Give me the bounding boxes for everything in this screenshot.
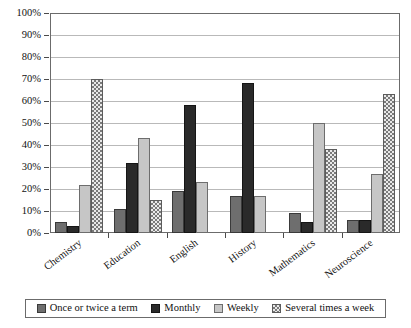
bar [172, 191, 184, 233]
y-tick-label: 70% [22, 74, 41, 85]
bar [383, 94, 395, 233]
y-tick-mark [44, 167, 49, 168]
y-tick-label: 20% [22, 184, 41, 195]
y-tick-mark [44, 211, 49, 212]
y-tick-label: 40% [22, 140, 41, 151]
bar [150, 200, 162, 233]
bar [55, 222, 67, 233]
x-category-label-text: English [168, 237, 200, 265]
y-tick-mark [44, 13, 49, 14]
y-tick-label: 100% [17, 8, 42, 19]
x-category-label-text: Chemistry [42, 237, 84, 272]
y-tick-mark [44, 189, 49, 190]
bar [313, 123, 325, 233]
y-tick-mark [44, 123, 49, 124]
chart-legend: Once or twice a termMonthlyWeeklySeveral… [25, 299, 386, 318]
bar [126, 163, 138, 233]
bar [230, 196, 242, 233]
bar [347, 220, 359, 233]
legend-item[interactable]: Weekly [214, 303, 259, 314]
y-tick-label: 0% [27, 228, 41, 239]
bar [196, 182, 208, 233]
legend-swatch [37, 304, 46, 313]
bar [325, 149, 337, 233]
y-axis: 0%10%20%30%40%50%60%70%80%90%100% [0, 0, 50, 233]
x-category-label-text: Education [101, 237, 142, 271]
bar [289, 213, 301, 233]
y-tick-mark [44, 79, 49, 80]
bar [138, 138, 150, 233]
y-tick-mark [44, 233, 49, 234]
y-tick-mark [44, 145, 49, 146]
bar-group [289, 13, 337, 233]
legend-label: Several times a week [285, 303, 374, 314]
x-axis-labels: ChemistryEducationEnglishHistoryMathemat… [50, 233, 400, 293]
bar [184, 105, 196, 233]
bar-group [230, 13, 278, 233]
y-tick-label: 80% [22, 52, 41, 63]
bar [359, 220, 371, 233]
bar-group [114, 13, 162, 233]
x-category-label-text: Neuroscience [323, 237, 375, 280]
bar [371, 174, 383, 233]
bars-layer [50, 13, 400, 233]
legend-item[interactable]: Monthly [151, 303, 200, 314]
bar [242, 83, 254, 233]
x-category-label-text: History [227, 237, 259, 265]
legend-item[interactable]: Several times a week [272, 303, 374, 314]
bar-chart: 0%10%20%30%40%50%60%70%80%90%100% Chemis… [0, 0, 411, 328]
bar [254, 196, 266, 233]
bar-group [347, 13, 395, 233]
bar [114, 209, 126, 233]
legend-swatch [272, 304, 281, 313]
y-tick-mark [44, 101, 49, 102]
legend-item[interactable]: Once or twice a term [37, 303, 138, 314]
bar-group [55, 13, 103, 233]
y-tick-label: 50% [22, 118, 41, 129]
legend-label: Monthly [164, 303, 200, 314]
legend-swatch [214, 304, 223, 313]
legend-swatch [151, 304, 160, 313]
legend-label: Weekly [227, 303, 259, 314]
bar [67, 226, 79, 233]
bar [91, 79, 103, 233]
y-tick-label: 30% [22, 162, 41, 173]
y-tick-label: 10% [22, 206, 41, 217]
bar [301, 222, 313, 233]
y-tick-mark [44, 57, 49, 58]
x-category-label-text: Mathematics [267, 237, 317, 278]
bar-group [172, 13, 220, 233]
bar [79, 185, 91, 233]
legend-label: Once or twice a term [50, 303, 138, 314]
y-tick-label: 60% [22, 96, 41, 107]
y-tick-mark [44, 35, 49, 36]
y-tick-label: 90% [22, 30, 41, 41]
